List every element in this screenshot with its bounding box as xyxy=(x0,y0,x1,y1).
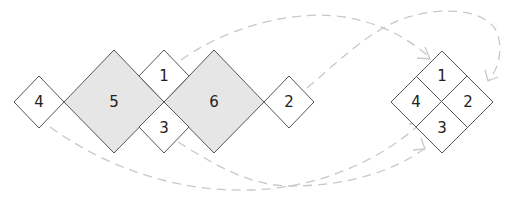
piece-5-label: 5 xyxy=(109,93,119,111)
piece-4: 4 xyxy=(14,76,64,128)
piece-4-label: 4 xyxy=(34,93,44,111)
arrowhead-1-icon xyxy=(417,47,430,59)
assembled-cell-right-label: 2 xyxy=(463,93,473,111)
dissection-diagram: 4 5 6 1 3 2 1 2 3 4 xyxy=(0,0,512,205)
piece-2: 2 xyxy=(264,76,314,128)
arrow-2-to-assembled xyxy=(307,11,500,88)
arrow-1-to-assembled xyxy=(181,15,428,60)
assembled-cell-bottom-label: 3 xyxy=(437,119,447,137)
arrowhead-2-icon xyxy=(485,70,498,81)
source-pieces: 4 5 6 1 3 2 xyxy=(14,50,314,153)
piece-6-label: 6 xyxy=(209,93,219,111)
piece-1-label: 1 xyxy=(159,67,169,85)
piece-2-label: 2 xyxy=(284,93,294,111)
assembled-square: 1 2 3 4 xyxy=(391,51,493,153)
assembled-cell-top-label: 1 xyxy=(437,67,447,85)
piece-3-label: 3 xyxy=(159,119,169,137)
assembled-cell-left-label: 4 xyxy=(411,93,421,111)
arrowhead-3-icon xyxy=(413,138,425,150)
